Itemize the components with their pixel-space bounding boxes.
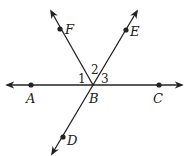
angle-2-label: 2 xyxy=(91,63,99,77)
label-b: B xyxy=(88,91,99,106)
label-d: D xyxy=(66,133,78,148)
point-e xyxy=(123,27,128,32)
label-f: F xyxy=(64,22,75,37)
angle-1-label: 1 xyxy=(78,72,86,86)
angle-3-label: 3 xyxy=(101,72,109,86)
point-d xyxy=(60,134,65,139)
point-c xyxy=(156,82,161,87)
geometry-diagram: A B C D E F 1 2 3 xyxy=(0,0,190,156)
diagram-canvas: A B C D E F 1 2 3 xyxy=(0,0,190,156)
label-a: A xyxy=(25,91,35,106)
label-e: E xyxy=(129,24,140,39)
point-f xyxy=(57,26,62,31)
label-c: C xyxy=(153,91,163,106)
point-a xyxy=(28,82,33,87)
